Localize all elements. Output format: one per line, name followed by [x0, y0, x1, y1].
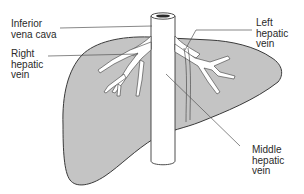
label-inferior-vena-cava: Inferior vena cava — [11, 19, 57, 40]
inferior-vena-cava — [151, 13, 175, 165]
label-left-hepatic-vein: Left hepatic vein — [256, 18, 288, 50]
label-right-hepatic-vein: Right hepatic vein — [11, 49, 43, 81]
label-middle-hepatic-vein: Middle hepatic vein — [252, 145, 284, 177]
